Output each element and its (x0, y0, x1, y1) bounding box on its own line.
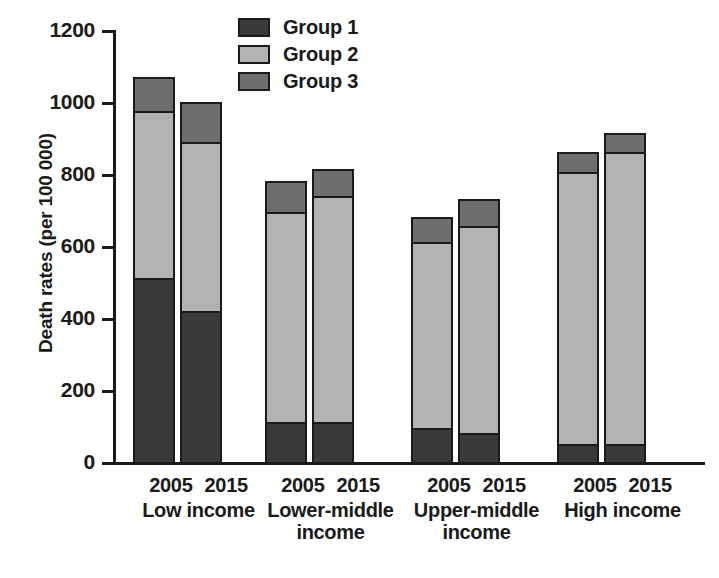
bar-segment-group-3 (133, 77, 175, 111)
y-axis-title: Death rates (per 100 000) (35, 93, 57, 393)
y-tick-label-800: 800 (61, 162, 95, 186)
x-axis-year-label: 2015 (337, 474, 380, 497)
bar-high-income-2015[interactable] (604, 133, 646, 462)
x-axis-year-label: 2005 (573, 474, 616, 497)
y-tick-400: 400 (102, 318, 113, 321)
y-tick-600: 600 (102, 246, 113, 249)
x-axis-years: 20052015 (528, 474, 718, 497)
x-axis-year-label: 2005 (149, 474, 192, 497)
bar-segment-group-3 (312, 169, 354, 196)
bar-segment-group-2 (458, 226, 500, 433)
x-axis-category-line: income (382, 521, 572, 543)
bar-segment-group-1 (312, 422, 354, 462)
y-tick-label-600: 600 (61, 234, 95, 258)
bar-segment-group-1 (180, 311, 222, 462)
y-tick-label-400: 400 (61, 306, 95, 330)
bar-segment-group-3 (180, 102, 222, 142)
y-tick-label-1200: 1200 (49, 18, 95, 42)
bar-upper-middle-income-2005[interactable] (411, 217, 453, 462)
y-tick-800: 800 (102, 174, 113, 177)
y-tick-0: 0 (102, 462, 113, 465)
x-axis-year-label: 2015 (483, 474, 526, 497)
bar-segment-group-1 (604, 444, 646, 462)
bar-segment-group-1 (458, 433, 500, 462)
bar-segment-group-1 (557, 444, 599, 462)
bar-segment-group-3 (458, 199, 500, 226)
y-tick-label-1000: 1000 (49, 90, 95, 114)
x-axis-category-label: High income (528, 499, 718, 521)
bar-low-income-2015[interactable] (180, 102, 222, 462)
chart-root: Death rates (per 100 000) Group 1 Group … (0, 0, 719, 578)
bar-segment-group-2 (312, 196, 354, 423)
y-tick-label-200: 200 (61, 378, 95, 402)
x-axis-year-label: 2005 (427, 474, 470, 497)
bar-segment-group-1 (133, 278, 175, 462)
bar-segment-group-2 (133, 111, 175, 278)
y-tick-1000: 1000 (102, 102, 113, 105)
y-axis-line (113, 30, 116, 463)
y-tick-1200: 1200 (102, 30, 113, 33)
bar-lower-middle-income-2015[interactable] (312, 169, 354, 462)
bar-segment-group-3 (411, 217, 453, 242)
bar-segment-group-3 (557, 152, 599, 172)
plot-area: 120010008006004002000 (113, 30, 705, 462)
bar-segment-group-1 (411, 428, 453, 462)
bar-segment-group-2 (180, 142, 222, 311)
x-axis-year-label: 2015 (629, 474, 672, 497)
bar-high-income-2005[interactable] (557, 152, 599, 462)
bar-segment-group-2 (411, 242, 453, 427)
bar-segment-group-2 (604, 152, 646, 444)
bar-segment-group-2 (557, 172, 599, 444)
x-axis-group-4: 20052015High income (528, 474, 718, 521)
x-axis-line (113, 462, 705, 465)
bar-segment-group-3 (265, 181, 307, 212)
bar-segment-group-3 (604, 133, 646, 153)
y-tick-label-0: 0 (84, 450, 95, 474)
bar-lower-middle-income-2005[interactable] (265, 181, 307, 462)
x-axis-year-label: 2005 (281, 474, 324, 497)
x-axis-category-line: High income (528, 499, 718, 521)
bar-segment-group-1 (265, 422, 307, 462)
y-tick-200: 200 (102, 390, 113, 393)
bar-segment-group-2 (265, 212, 307, 423)
bar-low-income-2005[interactable] (133, 77, 175, 462)
bar-upper-middle-income-2015[interactable] (458, 199, 500, 462)
